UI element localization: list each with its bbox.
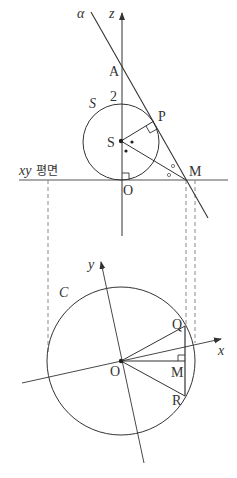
angle-mark-2 — [167, 173, 170, 176]
geometry-figure: α z A 2 S P S xy 평면 M O C y x O Q M — [0, 0, 237, 478]
label-y-axis: y — [86, 257, 95, 272]
label-P: P — [158, 109, 166, 124]
label-x-axis: x — [217, 343, 225, 358]
label-O-bottom: O — [110, 364, 120, 379]
label-xy-plane-suffix: 평면 — [36, 164, 58, 178]
label-2: 2 — [110, 89, 117, 104]
plane-alpha-line — [91, 12, 208, 218]
right-angle-mark-P — [146, 126, 157, 133]
label-A: A — [109, 64, 120, 79]
label-O-top: O — [123, 183, 133, 198]
right-angle-mark-M — [178, 355, 185, 361]
label-alpha: α — [77, 6, 85, 21]
label-Q: Q — [172, 317, 182, 332]
angle-dot-1 — [130, 140, 133, 143]
label-z-axis: z — [108, 6, 115, 21]
segment-SM — [121, 141, 186, 180]
label-C: C — [59, 285, 69, 300]
point-O — [119, 359, 123, 363]
label-S-center: S — [107, 135, 115, 150]
side-view: α z A 2 S P S xy 평면 M O — [18, 6, 228, 355]
label-R: R — [172, 393, 182, 408]
angle-dot-2 — [124, 149, 127, 152]
angle-mark-1 — [171, 164, 174, 167]
label-M-bottom: M — [171, 365, 184, 380]
label-M-top: M — [189, 164, 202, 179]
label-sphere-S: S — [89, 96, 96, 111]
point-S — [119, 139, 123, 143]
label-xy-plane-prefix: xy — [18, 163, 32, 178]
